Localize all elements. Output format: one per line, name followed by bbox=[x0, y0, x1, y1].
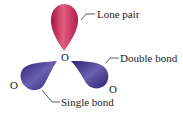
double-bond-lobe bbox=[71, 61, 108, 88]
double-bond-label: Double bond bbox=[120, 53, 177, 64]
ozone-orbital-diagram: O O O Lone pair Double bond Single bond bbox=[0, 0, 183, 117]
single-bond-label: Single bond bbox=[61, 97, 114, 108]
double-bond-leader bbox=[106, 58, 119, 63]
single-bond-lobe bbox=[21, 61, 57, 90]
lone-pair-label: Lone pair bbox=[97, 9, 139, 20]
center-oxygen-atom: O bbox=[61, 52, 69, 63]
right-oxygen-atom: O bbox=[109, 84, 117, 95]
single-bond-leader bbox=[42, 90, 60, 102]
lone-pair-leader bbox=[81, 14, 95, 20]
lone-pair-lobe bbox=[51, 4, 78, 51]
left-oxygen-atom: O bbox=[10, 80, 18, 91]
